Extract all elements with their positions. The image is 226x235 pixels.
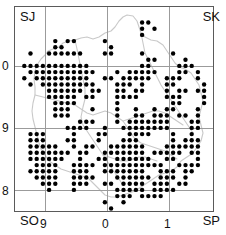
record-dot <box>121 194 125 198</box>
record-dot <box>115 101 119 105</box>
record-dot <box>41 138 45 142</box>
record-dot <box>128 144 132 148</box>
record-dot <box>134 126 138 130</box>
record-dot <box>47 70 51 74</box>
record-dot <box>177 95 181 99</box>
record-dot <box>165 169 169 173</box>
record-dot <box>128 157 132 161</box>
record-dot <box>152 113 156 117</box>
record-dot <box>177 182 181 186</box>
record-dot <box>59 51 63 55</box>
record-dot <box>22 64 26 68</box>
record-dot <box>59 113 63 117</box>
record-dot <box>165 89 169 93</box>
record-dot <box>59 157 63 161</box>
record-dot <box>103 126 107 130</box>
record-dot <box>115 95 119 99</box>
record-dot <box>115 157 119 161</box>
record-dot <box>97 89 101 93</box>
record-dot <box>84 70 88 74</box>
y-axis-tick-8: 8 <box>2 185 9 197</box>
record-dot <box>47 95 51 99</box>
record-dot <box>140 169 144 173</box>
record-dot <box>84 144 88 148</box>
record-dot <box>41 64 45 68</box>
record-dot <box>72 169 76 173</box>
record-dot <box>72 39 76 43</box>
record-dot <box>165 182 169 186</box>
record-dot <box>152 70 156 74</box>
record-dot <box>183 169 187 173</box>
record-dot <box>190 138 194 142</box>
record-dot <box>115 194 119 198</box>
x-axis-tick-9: 9 <box>40 218 47 230</box>
record-dot <box>190 144 194 148</box>
record-dot <box>146 64 150 68</box>
record-dot <box>78 89 82 93</box>
record-dot <box>35 138 39 142</box>
record-dot <box>196 163 200 167</box>
record-dot <box>190 120 194 124</box>
record-dot <box>72 126 76 130</box>
record-dot <box>140 163 144 167</box>
record-dot <box>165 157 169 161</box>
record-dot <box>115 70 119 74</box>
record-dot <box>134 182 138 186</box>
record-dot <box>28 144 32 148</box>
record-dot <box>128 182 132 186</box>
record-dot <box>90 70 94 74</box>
record-dot <box>41 82 45 86</box>
record-dot <box>84 95 88 99</box>
record-dot <box>35 64 39 68</box>
record-dot <box>103 132 107 136</box>
record-dot <box>109 144 113 148</box>
record-dot <box>47 89 51 93</box>
record-dot <box>121 89 125 93</box>
y-axis-tick-0: 0 <box>2 60 9 72</box>
record-dot <box>196 144 200 148</box>
record-dot <box>159 126 163 130</box>
record-dot <box>84 82 88 86</box>
record-dot <box>78 151 82 155</box>
record-dot <box>171 188 175 192</box>
record-dot <box>177 151 181 155</box>
record-dot <box>146 76 150 80</box>
record-dot <box>121 138 125 142</box>
record-dot <box>196 107 200 111</box>
record-dot <box>84 175 88 179</box>
record-dot <box>35 163 39 167</box>
record-dot <box>53 163 57 167</box>
grid-square-label-sj: SJ <box>20 10 35 23</box>
record-dot <box>196 113 200 117</box>
record-dot <box>140 82 144 86</box>
record-dot <box>146 58 150 62</box>
record-dot <box>171 157 175 161</box>
record-dot <box>115 120 119 124</box>
record-dot <box>177 70 181 74</box>
record-dot <box>84 163 88 167</box>
record-dot <box>35 76 39 80</box>
record-dot <box>183 182 187 186</box>
record-dot <box>41 70 45 74</box>
record-dot <box>35 169 39 173</box>
record-dot <box>78 70 82 74</box>
record-dot <box>140 126 144 130</box>
record-dot <box>90 163 94 167</box>
record-dot <box>53 113 57 117</box>
record-dot <box>115 188 119 192</box>
record-dot <box>140 157 144 161</box>
record-dot <box>47 188 51 192</box>
record-dot <box>134 70 138 74</box>
record-dot <box>121 157 125 161</box>
record-dot <box>140 151 144 155</box>
record-dot <box>28 157 32 161</box>
record-dot <box>72 182 76 186</box>
record-dot <box>59 101 63 105</box>
record-dot <box>115 144 119 148</box>
record-dot <box>146 126 150 130</box>
record-dot <box>190 132 194 136</box>
record-dot <box>146 20 150 24</box>
record-dot <box>78 163 82 167</box>
record-dot <box>41 163 45 167</box>
map-plot-frame <box>14 6 214 212</box>
